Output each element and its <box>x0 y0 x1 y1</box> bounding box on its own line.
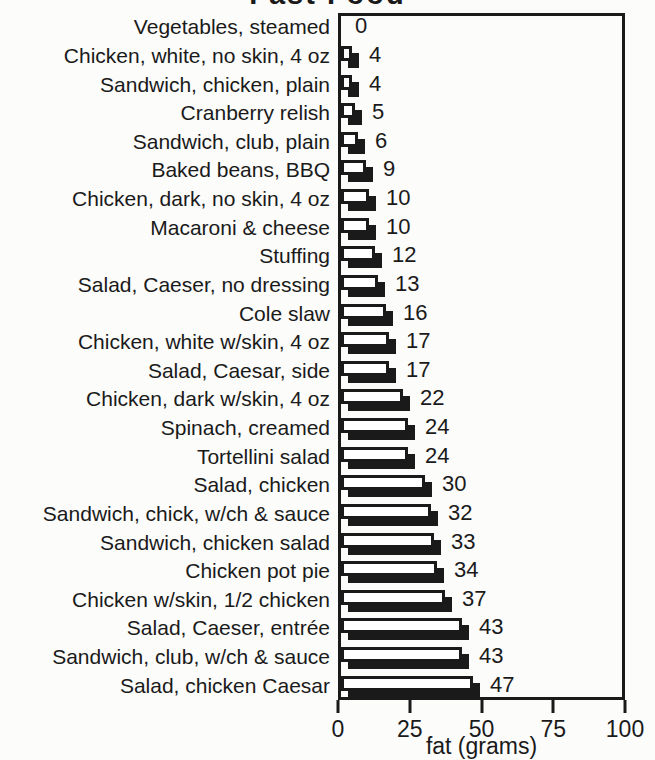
bar-row: Sandwich, chicken, plain4 <box>0 70 655 99</box>
category-label: Baked beans, BBQ <box>0 158 341 182</box>
bar-row: Chicken, white, no skin, 4 oz4 <box>0 42 655 71</box>
bar-row: Salad, Caeser, no dressing13 <box>0 271 655 300</box>
bar-row: Chicken pot pie34 <box>0 557 655 586</box>
bar-area: 43 <box>341 643 628 672</box>
bar-area: 6 <box>341 128 628 157</box>
category-label: Chicken pot pie <box>0 559 341 583</box>
value-label: 16 <box>403 300 427 326</box>
category-label: Salad, Caeser, no dressing <box>0 273 341 297</box>
bar-row: Sandwich, club, w/ch & sauce43 <box>0 643 655 672</box>
category-label: Chicken, dark, no skin, 4 oz <box>0 187 341 211</box>
bar-area: 32 <box>341 500 628 529</box>
category-label: Vegetables, steamed <box>0 15 341 39</box>
bar-area: 47 <box>341 671 628 700</box>
bar <box>341 275 378 290</box>
bar-row: Cranberry relish5 <box>0 99 655 128</box>
value-label: 12 <box>392 242 416 268</box>
value-label: 24 <box>425 443 449 469</box>
bar <box>341 218 369 233</box>
value-label: 9 <box>383 156 395 182</box>
bar <box>341 590 445 605</box>
bar <box>341 676 473 691</box>
bar-area: 5 <box>341 99 628 128</box>
bar <box>341 475 425 490</box>
value-label: 10 <box>386 185 410 211</box>
bar <box>341 46 352 61</box>
value-label: 17 <box>406 328 430 354</box>
bar <box>341 647 462 662</box>
value-label: 33 <box>451 529 475 555</box>
category-label: Spinach, creamed <box>0 416 341 440</box>
bar <box>341 504 431 519</box>
value-label: 34 <box>454 557 478 583</box>
value-label: 17 <box>406 357 430 383</box>
value-label: 22 <box>420 385 444 411</box>
category-label: Macaroni & cheese <box>0 216 341 240</box>
bar <box>341 418 408 433</box>
bar-row: Stuffing12 <box>0 242 655 271</box>
bar <box>341 332 389 347</box>
bar-row: Chicken w/skin, 1/2 chicken37 <box>0 586 655 615</box>
chart-title-text: Fast Food <box>0 0 655 9</box>
bar-area: 16 <box>341 299 628 328</box>
bar-rows: Vegetables, steamed0Chicken, white, no s… <box>0 13 655 700</box>
value-label: 24 <box>425 414 449 440</box>
bar-area: 12 <box>341 242 628 271</box>
value-label: 6 <box>375 128 387 154</box>
bar <box>341 246 375 261</box>
bar-area: 22 <box>341 385 628 414</box>
bar-row: Salad, Caesar, side17 <box>0 357 655 386</box>
bar-area: 43 <box>341 614 628 643</box>
category-label: Chicken, dark w/skin, 4 oz <box>0 387 341 411</box>
bar-row: Sandwich, chicken salad33 <box>0 528 655 557</box>
category-label: Sandwich, chicken, plain <box>0 73 341 97</box>
value-label: 4 <box>369 42 381 68</box>
bar-row: Sandwich, club, plain6 <box>0 128 655 157</box>
bar-row: Baked beans, BBQ9 <box>0 156 655 185</box>
bar-row: Vegetables, steamed0 <box>0 13 655 42</box>
bar-area: 17 <box>341 357 628 386</box>
category-label: Sandwich, chick, w/ch & sauce <box>0 502 341 526</box>
bar <box>341 389 403 404</box>
x-axis-tick <box>624 700 627 713</box>
category-label: Stuffing <box>0 244 341 268</box>
bar <box>341 447 408 462</box>
value-label: 13 <box>395 271 419 297</box>
bar-row: Chicken, dark, no skin, 4 oz10 <box>0 185 655 214</box>
value-label: 47 <box>490 672 514 698</box>
x-axis: 0255075100 <box>338 700 625 714</box>
bar <box>341 304 386 319</box>
category-label: Sandwich, club, plain <box>0 130 341 154</box>
value-label: 30 <box>442 471 466 497</box>
bar <box>341 361 389 376</box>
bar-area: 24 <box>341 442 628 471</box>
bar-row: Spinach, creamed24 <box>0 414 655 443</box>
bar-row: Salad, chicken30 <box>0 471 655 500</box>
category-label: Cole slaw <box>0 302 341 326</box>
bar-area: 10 <box>341 213 628 242</box>
bar-area: 34 <box>341 557 628 586</box>
bar-area: 4 <box>341 42 628 71</box>
category-label: Tortellini salad <box>0 445 341 469</box>
bar-row: Cole slaw16 <box>0 299 655 328</box>
category-label: Chicken w/skin, 1/2 chicken <box>0 588 341 612</box>
value-label: 43 <box>479 614 503 640</box>
bar-row: Salad, chicken Caesar47 <box>0 671 655 700</box>
bar-area: 17 <box>341 328 628 357</box>
bar <box>341 561 437 576</box>
category-label: Salad, Caesar, side <box>0 359 341 383</box>
value-label: 32 <box>448 500 472 526</box>
bar <box>341 132 358 147</box>
x-axis-tick <box>337 700 340 713</box>
bar <box>341 103 355 118</box>
bar-area: 0 <box>341 13 628 42</box>
x-axis-title: fat (grams) <box>338 733 625 760</box>
x-axis-tick <box>552 700 555 713</box>
bar-row: Sandwich, chick, w/ch & sauce32 <box>0 500 655 529</box>
category-label: Sandwich, chicken salad <box>0 531 341 555</box>
category-label: Chicken, white, no skin, 4 oz <box>0 44 341 68</box>
bar-row: Tortellini salad24 <box>0 442 655 471</box>
bar-row: Chicken, dark w/skin, 4 oz22 <box>0 385 655 414</box>
bar-area: 13 <box>341 271 628 300</box>
bar-area: 4 <box>341 70 628 99</box>
